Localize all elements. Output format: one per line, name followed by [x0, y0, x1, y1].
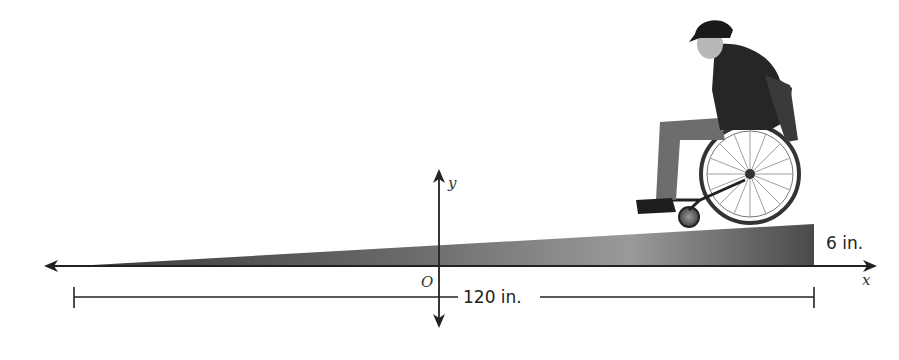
y-axis-label: y [447, 174, 457, 192]
origin-label: O [421, 273, 433, 291]
x-axis-label: x [862, 271, 871, 289]
ramp-wedge [75, 224, 814, 266]
ramp-diagram: y x O 120 in. 6 in. [0, 0, 899, 360]
rise-dimension-label: 6 in. [826, 233, 863, 253]
run-dimension-label: 120 in. [463, 287, 522, 307]
wheelchair-person-figure [636, 20, 799, 227]
run-dimension-line [74, 287, 814, 308]
